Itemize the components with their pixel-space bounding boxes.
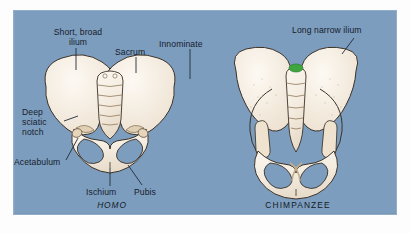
homo-sacral-ala-right — [113, 74, 117, 78]
caption-homo: HOMO — [74, 200, 150, 210]
label-ischium: Ischium — [86, 187, 116, 197]
caption-chimpanzee: CHIMPANZEE — [250, 200, 346, 210]
sacral-promontory-marker — [289, 64, 303, 72]
label-deep-sciatic-notch: Deep sciatic notch — [22, 107, 47, 138]
label-pubis: Pubis — [134, 187, 156, 197]
chimpanzee-pelvis — [234, 47, 357, 199]
leader-pubis — [128, 165, 142, 185]
label-long-narrow-ilium: Long narrow ilium — [292, 25, 362, 35]
figure-panel: Short, broad ilium Sacrum Innominate Dee… — [13, 10, 397, 215]
chimp-right-ilium — [299, 47, 358, 131]
homo-sacral-ala-left — [103, 74, 107, 78]
label-sacrum: Sacrum — [115, 47, 145, 57]
homo-sacrum — [97, 71, 123, 139]
chimp-sacrum — [286, 68, 306, 153]
homo-pelvis — [45, 55, 175, 173]
label-innominate: Innominate — [159, 39, 203, 49]
label-short-broad-ilium: Short, broad ilium — [38, 27, 118, 47]
pelvis-comparison-figure: Short, broad ilium Sacrum Innominate Dee… — [0, 0, 410, 233]
chimp-left-ilium — [234, 47, 293, 131]
label-acetabulum: Acetabulum — [14, 157, 60, 167]
